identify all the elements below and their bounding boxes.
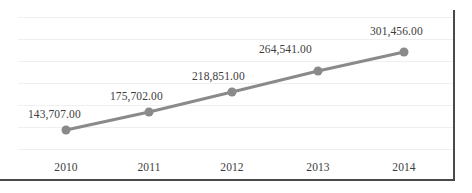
- data-point-marker[interactable]: [314, 67, 323, 76]
- chart-border-bottom: [0, 179, 455, 181]
- x-axis-tick-label: 2014: [392, 161, 415, 173]
- x-axis-tick-label: 2013: [306, 161, 329, 173]
- data-label: 301,456.00: [370, 25, 423, 37]
- data-point-marker[interactable]: [400, 48, 409, 57]
- data-label: 218,851.00: [192, 70, 245, 82]
- x-axis-tick-label: 2012: [220, 161, 243, 173]
- line-chart: 143,707.00 175,702.00 218,851.00 264,541…: [0, 0, 472, 193]
- data-label: 143,707.00: [28, 108, 81, 120]
- x-axis-tick-label: 2010: [54, 161, 77, 173]
- data-label: 175,702.00: [110, 90, 163, 102]
- data-label: 264,541.00: [259, 43, 312, 55]
- x-axis-tick-label: 2011: [138, 161, 161, 173]
- data-point-marker[interactable]: [62, 126, 71, 135]
- data-point-marker[interactable]: [228, 88, 237, 97]
- data-point-marker[interactable]: [145, 108, 154, 117]
- chart-border-right: [453, 10, 455, 181]
